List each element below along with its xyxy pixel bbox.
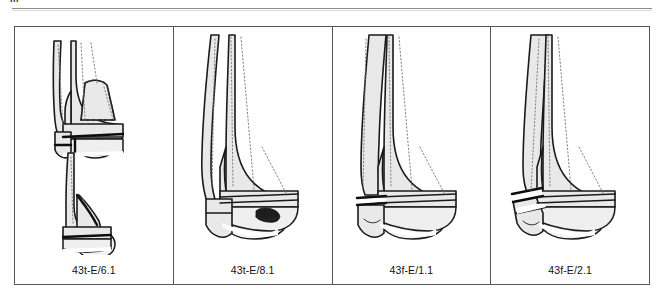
figure-panel-2: 43t-E/8.1 <box>174 27 333 284</box>
ankle-fracture-drawing-ap-and-lateral <box>19 27 169 255</box>
panel-caption-1: 43t-E/6.1 <box>15 256 173 284</box>
illustration-panel-2 <box>174 27 332 256</box>
illustration-panel-1 <box>15 27 173 256</box>
figure-panel-4: 43f-E/2.1 <box>491 27 649 284</box>
illustration-panel-3 <box>333 27 491 256</box>
ap-view-group <box>53 41 123 158</box>
figure-panel-1: 43t-E/6.1 <box>15 27 174 284</box>
illustration-panel-4 <box>491 27 649 256</box>
distal-fibular-fragment <box>358 205 384 237</box>
fracture-classification-figure: 43t-E/6.1 <box>14 26 650 285</box>
figure-panel-3: 43f-E/1.1 <box>333 27 492 284</box>
panel-caption-2: 43t-E/8.1 <box>174 256 332 284</box>
fibula-oblique-wedge-fracture-drawing <box>495 27 645 255</box>
panel-caption-4: 43f-E/2.1 <box>491 256 649 284</box>
fibula-transverse-fracture-drawing <box>336 27 486 255</box>
panel-caption-3: 43f-E/1.1 <box>333 256 491 284</box>
lateral-view-group <box>63 153 115 255</box>
ankle-impaction-drawing <box>178 27 328 255</box>
page-header-rule-shadow <box>12 10 652 11</box>
page-header-rule <box>12 8 652 9</box>
page-bottom-edge <box>0 288 665 302</box>
running-head-fragment: III <box>10 0 19 2</box>
